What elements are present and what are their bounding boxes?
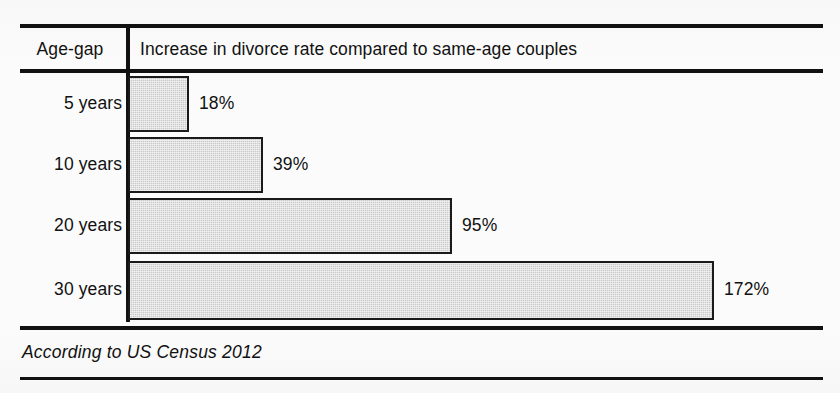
table-bottom-rule	[20, 377, 823, 380]
table-row: 20 years 95%	[0, 198, 840, 254]
table-top-rule	[20, 24, 823, 28]
table-row: 10 years 39%	[0, 137, 840, 193]
bar-value-5-years: 18%	[199, 93, 234, 114]
bar-20-years	[128, 198, 452, 254]
bar-value-20-years: 95%	[462, 215, 497, 236]
header-value-description: Increase in divorce rate compared to sam…	[140, 30, 577, 68]
table-row: 5 years 18%	[0, 76, 840, 132]
row-label-20-years: 20 years	[20, 215, 122, 236]
bar-10-years	[128, 137, 263, 193]
header-age-gap: Age-gap	[20, 30, 120, 68]
footnote-top-rule	[20, 326, 823, 330]
bar-value-30-years: 172%	[724, 279, 769, 300]
divorce-rate-bar-chart-figure: Age-gap Increase in divorce rate compare…	[0, 0, 840, 393]
bar-5-years	[128, 76, 189, 132]
source-footnote: According to US Census 2012	[22, 337, 262, 367]
table-row: 30 years 172%	[0, 261, 840, 320]
row-label-5-years: 5 years	[20, 93, 122, 114]
header-separator-rule	[20, 69, 823, 73]
bar-30-years	[128, 261, 714, 320]
table-header-row: Age-gap Increase in divorce rate compare…	[0, 30, 840, 68]
bar-value-10-years: 39%	[273, 154, 308, 175]
row-label-10-years: 10 years	[20, 154, 122, 175]
row-label-30-years: 30 years	[20, 279, 122, 300]
